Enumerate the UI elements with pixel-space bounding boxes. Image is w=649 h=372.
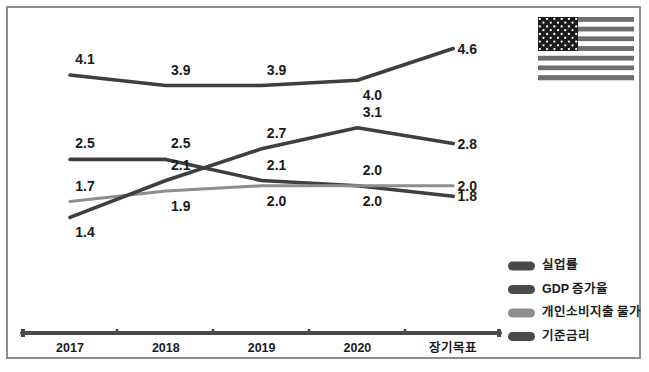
data-label: 2.0 [363,162,383,178]
flag-star [557,44,559,46]
flag-star [553,25,555,27]
flag-star [550,44,552,46]
flag-star [553,40,555,42]
flag-star [539,25,541,27]
flag-star [546,33,548,35]
x-axis-tick-label-2: 2019 [248,341,276,355]
data-label: 2.0 [267,193,287,209]
flag-star [564,29,566,31]
flag-stripe [538,75,634,80]
series-line-0 [70,49,453,86]
flag-star [557,22,559,24]
flag-star [568,18,570,20]
legend-swatch-2 [508,309,535,318]
data-label: 2.5 [171,135,191,151]
data-label: 2.1 [171,157,191,173]
flag-stripe [538,65,634,70]
data-label: 4.0 [363,87,383,103]
flag-star [546,25,548,27]
data-label: 1.7 [75,178,95,194]
data-label: 2.7 [267,125,287,141]
flag-star [550,22,552,24]
flag-star [542,37,544,39]
flag-star [575,25,577,27]
flag-star [560,18,562,20]
flag-star [553,18,555,20]
flag-star [553,33,555,35]
flag-star [564,44,566,46]
flag-star [550,37,552,39]
flag-star [546,48,548,50]
flag-stripe [538,70,634,75]
x-axis-tick-label-3: 2020 [343,341,371,355]
flag-star [571,29,573,31]
flag-star [560,40,562,42]
flag-star [542,22,544,24]
flag-star [575,40,577,42]
data-label: 2.0 [457,178,477,194]
flag-stripe [538,56,634,61]
flag-star [575,18,577,20]
data-label: 3.9 [267,62,287,78]
flag-star [560,25,562,27]
legend-swatch-3 [508,332,535,341]
flag-star [575,33,577,35]
legend-label-3[interactable]: 기준금리 [542,328,590,343]
legend-swatch-1 [508,285,535,294]
flag-star [575,48,577,50]
series-line-3 [70,128,453,218]
x-axis-tick-labels: 2017201820192020장기목표 [56,340,477,355]
flag-stripe [538,61,634,66]
flag-star [571,22,573,24]
flag-star [550,29,552,31]
flag-star [539,33,541,35]
chart-figure: 4.13.93.94.04.62.52.52.12.01.81.71.92.02… [0,0,649,372]
data-label: 4.1 [75,51,95,67]
flag-star [553,48,555,50]
data-label: 1.4 [75,224,95,240]
x-axis-tick-label-1: 2018 [152,341,180,355]
flag-star [546,18,548,20]
legend-swatch-0 [508,262,535,271]
flag-star [571,37,573,39]
flag-stripe [538,51,634,56]
data-label: 2.1 [267,157,287,173]
data-label: 2.0 [363,193,383,209]
flag-star [571,44,573,46]
flag-star [568,33,570,35]
flag-star [560,33,562,35]
united-states-flag-icon [538,17,634,80]
flag-star [557,37,559,39]
x-axis [22,329,500,337]
series-lines-group [70,49,453,218]
flag-star [539,48,541,50]
flag-star [568,40,570,42]
flag-star [560,48,562,50]
data-label: 4.6 [457,41,477,57]
flag-star [539,18,541,20]
legend-label-0[interactable]: 실업률 [542,257,578,272]
flag-star [546,40,548,42]
flag-star [542,44,544,46]
legend-label-1[interactable]: GDP 증가율 [542,281,608,296]
line-chart: 4.13.93.94.04.62.52.52.12.01.81.71.92.02… [0,0,649,372]
x-axis-tick-label-0: 2017 [56,341,84,355]
flag-star [564,37,566,39]
flag-star [557,29,559,31]
flag-star [539,40,541,42]
series-line-1 [70,159,453,196]
data-label: 2.5 [75,135,95,151]
x-axis-tick-label-4: 장기목표 [429,340,477,355]
flag-star [568,48,570,50]
data-labels-group: 4.13.93.94.04.62.52.52.12.01.81.71.92.02… [75,41,477,241]
data-label: 1.9 [171,198,191,214]
data-label: 3.1 [363,104,383,120]
data-label: 2.8 [457,136,477,152]
flag-star [568,25,570,27]
chart-legend: 실업률GDP 증가율개인소비지출 물가기준금리 [508,257,641,343]
flag-star [564,22,566,24]
legend-label-2[interactable]: 개인소비지출 물가 [542,304,641,319]
flag-star [542,29,544,31]
data-label: 3.9 [171,62,191,78]
